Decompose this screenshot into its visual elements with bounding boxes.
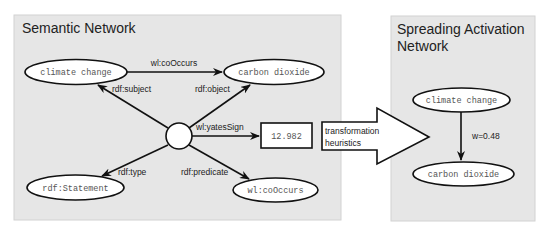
edge-label-predicate: rdf:predicate: [181, 167, 229, 177]
node-label: carbon dioxide: [238, 68, 309, 78]
edge-label-cooccurs: wl:coOccurs: [150, 58, 197, 68]
edge-label-yates-sign: wl:yatesSign: [195, 122, 244, 132]
node-label: climate change: [426, 96, 497, 106]
node-label: carbon dioxide: [428, 170, 499, 180]
node-wl-cooccurs: wl:coOccurs: [233, 178, 318, 202]
edge-label-subject: rdf:subject: [112, 84, 152, 94]
node-value-literal: 12.982: [261, 123, 312, 148]
node-label: rdf:Statement: [42, 184, 108, 194]
semantic-network-title: Semantic Network: [22, 20, 136, 37]
spreading-activation-title-line1: Spreading Activation: [397, 21, 525, 38]
value-label: 12.982: [271, 132, 302, 142]
node-carbon-dioxide: carbon dioxide: [224, 60, 324, 85]
node-climate-change: climate change: [25, 60, 127, 85]
edge-label-object: rdf:object: [195, 84, 231, 94]
sa-node-climate-change: climate change: [413, 88, 510, 112]
transformation-label-line1: transformation: [325, 126, 380, 136]
edge-label-type: rdf:type: [118, 167, 147, 177]
sa-node-carbon-dioxide: carbon dioxide: [413, 162, 514, 186]
node-statement-blank: [166, 123, 192, 149]
transformation-label-line2: heuristics: [325, 138, 361, 148]
edge-weight-label: w=0.48: [471, 131, 500, 141]
spreading-activation-title-line2: Network: [397, 38, 448, 55]
node-label: climate change: [40, 68, 111, 78]
node-label: wl:coOccurs: [247, 186, 303, 196]
node-rdf-statement: rdf:Statement: [27, 175, 124, 200]
